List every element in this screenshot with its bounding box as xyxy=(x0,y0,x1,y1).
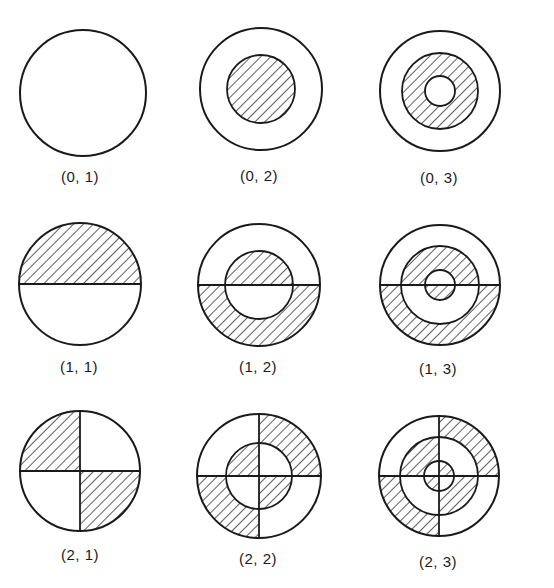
mode-1-1 xyxy=(19,223,141,345)
mode-label: (2, 1) xyxy=(61,546,99,563)
mode-label: (2, 3) xyxy=(419,553,457,570)
mode-label: (1, 3) xyxy=(419,360,457,377)
mode-label: (2, 2) xyxy=(239,550,277,567)
mode-label: (0, 3) xyxy=(420,169,458,186)
membrane-modes-figure xyxy=(0,0,554,588)
mode-2-2 xyxy=(197,414,321,538)
mode-2-1 xyxy=(20,411,140,531)
boundary-circle xyxy=(20,30,146,156)
mode-label: (1, 1) xyxy=(60,358,98,375)
mode-0-3 xyxy=(380,31,500,151)
nodal-circle xyxy=(425,76,455,106)
modes-layer xyxy=(19,28,500,538)
mode-label: (0, 1) xyxy=(61,168,99,185)
boundary-circle xyxy=(380,31,500,151)
mode-1-2 xyxy=(198,224,320,346)
mode-0-1 xyxy=(20,30,146,156)
mode-1-3 xyxy=(380,225,500,345)
mode-2-3 xyxy=(379,416,499,536)
mode-label: (0, 2) xyxy=(240,167,278,184)
mode-label: (1, 2) xyxy=(239,358,277,375)
mode-0-2 xyxy=(200,28,322,150)
